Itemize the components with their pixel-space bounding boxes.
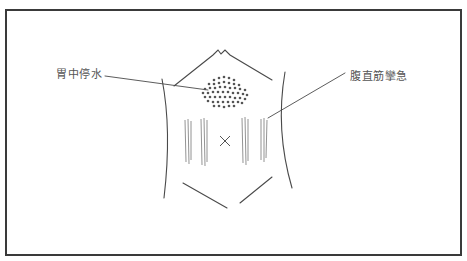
right-torso-line: [281, 72, 292, 188]
right-rectus-hatching: [242, 117, 267, 165]
rib-cage-outline: [174, 50, 272, 86]
left-rectus-hatching: [185, 118, 207, 166]
rectus-spasm-label: 腹直筋攣急: [350, 67, 408, 83]
abdomen-diagram: [0, 0, 467, 261]
right-pelvic-line: [240, 177, 272, 203]
stomach-water-dots: [202, 76, 249, 109]
left-torso-line: [162, 79, 168, 198]
navel-x-mark: [220, 136, 230, 146]
left-pelvic-line: [183, 183, 227, 208]
stomach-water-label: 胃中停水: [56, 65, 102, 81]
stomach-leader-line: [105, 76, 208, 90]
rectus-leader-line: [268, 73, 345, 118]
